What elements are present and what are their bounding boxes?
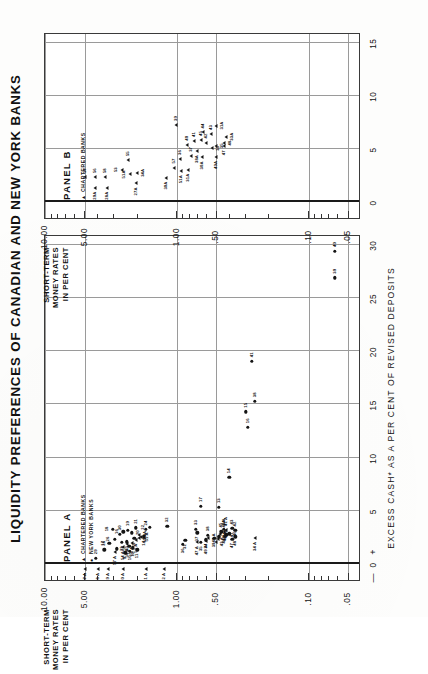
data-point-label: 43 — [209, 125, 213, 130]
circle-marker-icon — [113, 537, 116, 540]
data-point-label: 30A — [200, 161, 204, 169]
panel-b-plot-area: 29A57565828A27A51A5334A5530A5731A51A3637… — [45, 34, 359, 218]
triangle-marker-icon — [174, 123, 177, 127]
triangle-marker-icon — [202, 130, 205, 134]
axis-tick-minor — [328, 214, 329, 218]
triangle-marker-icon — [215, 124, 218, 128]
y-axis-tick-label: .50 — [210, 592, 220, 605]
data-point-label: 51A — [122, 170, 126, 178]
data-point-label: 31A — [220, 122, 224, 130]
triangle-marker-icon — [106, 567, 109, 571]
panel-a: 2928271726301816192021152214252423131211… — [44, 235, 360, 581]
panel-b: 29A57565828A27A51A5334A5530A5731A51A3637… — [44, 33, 360, 219]
y-axis-title-line: IN PER CENT — [61, 247, 70, 339]
circle-marker-icon — [246, 426, 249, 429]
triangle-marker-icon — [215, 144, 218, 148]
data-point-label: 53 — [114, 167, 118, 172]
data-point-label: 21 — [133, 519, 137, 524]
gridline-vertical — [45, 42, 359, 43]
triangle-marker-icon — [222, 141, 225, 145]
data-point-label: 27A — [133, 187, 137, 195]
panel-a-label: PANEL A — [61, 513, 72, 562]
triangle-marker-icon — [187, 168, 190, 172]
triangle-marker-icon — [84, 567, 87, 571]
triangle-marker-icon — [162, 567, 165, 571]
axis-tick-minor — [74, 214, 75, 218]
circle-marker-icon — [126, 528, 129, 531]
circle-marker-icon — [184, 538, 187, 541]
triangle-marker-icon — [211, 146, 214, 150]
legend-label: CHARTERED BANKS — [80, 132, 86, 192]
data-point-label: 38A — [195, 155, 199, 163]
data-point-label: 17 — [198, 497, 202, 502]
x-axis-tick-label: 10 — [369, 454, 378, 464]
data-point-label: 19 — [126, 521, 130, 526]
data-point-label: 57 A — [113, 556, 117, 565]
zero-axis-line — [45, 200, 359, 202]
data-point-label: 29A — [92, 192, 96, 200]
triangle-marker-icon — [215, 155, 218, 159]
data-point-label: 31 A — [144, 573, 148, 580]
triangle-marker-icon — [193, 139, 196, 143]
triangle-marker-icon — [172, 166, 175, 170]
axis-tick-minor — [268, 214, 269, 218]
gridline-horizontal — [309, 34, 310, 218]
axis-tick-minor — [268, 576, 269, 580]
data-point-label: 17 — [101, 541, 105, 546]
x-axis-tick-label: 15 — [369, 400, 378, 410]
x-axis-tick-label: 10 — [369, 92, 378, 102]
x-axis-tick-label: 5 — [369, 147, 378, 152]
triangle-marker-icon — [129, 172, 132, 176]
triangle-marker-icon — [189, 154, 192, 158]
triangle-marker-icon — [179, 169, 182, 173]
axis-tick-major — [84, 211, 85, 218]
triangle-marker-icon — [225, 135, 228, 139]
data-point-label: 47 — [222, 150, 226, 155]
axis-tick-major — [176, 573, 177, 580]
x-axis-tick-label: 30 — [369, 241, 378, 251]
x-axis-tick-label: 0 — [369, 201, 378, 206]
data-point-label: 16 — [115, 529, 119, 534]
data-point-label: 49A — [214, 161, 218, 169]
data-point-label: 32 — [165, 517, 169, 522]
axis-tick-minor — [65, 576, 66, 580]
data-point-label: 18 — [105, 526, 109, 531]
axis-tick-minor — [137, 214, 138, 218]
data-point-label: 30A — [164, 182, 168, 190]
triangle-marker-icon — [253, 536, 256, 540]
data-point-label: 51A — [179, 175, 183, 183]
data-point-label: 40 — [185, 136, 189, 141]
data-point-label: 52 A — [133, 544, 137, 553]
data-point-label: 42 — [233, 522, 237, 527]
axis-tick-minor — [57, 576, 58, 580]
triangle-marker-icon — [105, 186, 108, 190]
x-axis-tick-label: 15 — [369, 39, 378, 49]
circle-marker-icon — [217, 505, 220, 508]
y-axis-tick-label: 10.00 — [39, 587, 49, 611]
data-point-label: 38 A — [96, 573, 100, 580]
gridline-vertical — [45, 457, 359, 458]
triangle-marker-icon — [206, 536, 209, 540]
data-point-label: 41 — [192, 132, 196, 137]
y-axis-tick-label: .50 — [210, 230, 220, 243]
triangle-marker-icon: ▲ — [79, 554, 87, 562]
axis-tick-minor — [57, 214, 58, 218]
gridline-vertical — [45, 297, 359, 298]
y-axis-tick-label: 5.00 — [79, 228, 89, 247]
legend-item: ▲CHARTERED BANKS — [79, 494, 87, 562]
y-axis-tick-label: 1.00 — [171, 590, 181, 609]
data-point-label: 37 — [189, 147, 193, 152]
x-axis-tick-label: 0 — [369, 563, 378, 568]
gridline-vertical — [45, 95, 359, 96]
triangle-marker-icon — [144, 567, 147, 571]
triangle-marker-icon — [93, 175, 96, 179]
axis-tick-minor — [328, 576, 329, 580]
triangle-marker-icon — [165, 176, 168, 180]
axis-tick-minor — [97, 214, 98, 218]
axis-tick-major — [348, 573, 349, 580]
y-axis-title: SHORT-TERMMONEY RATESIN PER CENT — [42, 609, 70, 674]
panel-b-legend: ▲CHARTERED BANKS — [79, 132, 87, 200]
axis-tick-minor — [113, 576, 114, 580]
data-point-label: 38 — [253, 392, 257, 397]
circle-marker-icon — [148, 526, 151, 529]
